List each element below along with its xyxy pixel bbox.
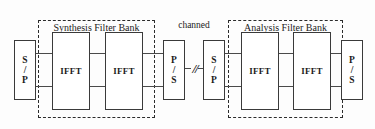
channel-break-symbol-text: // — [192, 61, 197, 76]
wire-sp-in-to-synth-ifft1-lower — [35, 86, 53, 87]
sp-rx-line-2: / — [213, 65, 216, 75]
wire-sp-rx-to-analysis-ifft1-lower — [224, 86, 242, 87]
sp-rx-line-1: S — [211, 55, 216, 65]
serial-to-parallel-input-label: S / P — [22, 55, 28, 85]
wire-synth-ifft1-to-ifft2-upper — [89, 53, 106, 54]
synthesis-ifft-block-2-label: IFFT — [113, 66, 134, 76]
wire-synth-ifft1-to-ifft2-lower — [89, 86, 106, 87]
synthesis-ifft-block-1-label: IFFT — [60, 66, 81, 76]
filter-bank-diagram: S / P Synthesis Filter Bank IFFT IFFT P … — [0, 0, 375, 129]
sp-input-line-2: / — [24, 65, 27, 75]
wire-sp-rx-to-analysis-ifft1-upper — [224, 53, 242, 54]
wire-synth-ifft2-to-ps-tx-lower — [142, 86, 164, 87]
parallel-to-serial-output-block: P / S — [341, 40, 363, 100]
channel-label: channed — [163, 20, 225, 30]
serial-to-parallel-receive-label: S / P — [211, 55, 217, 85]
parallel-to-serial-output-label: P / S — [349, 55, 355, 85]
synthesis-ifft-block-2: IFFT — [105, 32, 143, 110]
wire-synth-ifft2-to-ps-tx-upper — [142, 53, 164, 54]
wire-analysis-ifft1-to-ifft2-upper — [278, 53, 294, 54]
parallel-to-serial-transmit-block: P / S — [163, 40, 185, 100]
sp-input-line-1: S — [22, 55, 27, 65]
wire-sp-in-to-synth-ifft1-upper — [35, 53, 53, 54]
ps-output-line-3: S — [349, 75, 354, 85]
analysis-ifft-block-2-label: IFFT — [301, 66, 322, 76]
sp-input-line-3: P — [22, 75, 28, 85]
analysis-ifft-block-2: IFFT — [293, 32, 331, 110]
ps-output-line-2: / — [351, 65, 354, 75]
synthesis-ifft-block-1: IFFT — [52, 32, 90, 110]
serial-to-parallel-receive-block: S / P — [203, 40, 225, 100]
sp-rx-line-3: P — [211, 75, 217, 85]
analysis-ifft-block-1: IFFT — [241, 32, 279, 110]
channel-break-symbol: // — [186, 62, 204, 75]
channel-label-text: channed — [178, 20, 210, 30]
analysis-ifft-block-1-label: IFFT — [249, 66, 270, 76]
parallel-to-serial-transmit-label: P / S — [171, 55, 177, 85]
ps-output-line-1: P — [349, 55, 355, 65]
ps-tx-line-3: S — [171, 75, 176, 85]
wire-analysis-ifft1-to-ifft2-lower — [278, 86, 294, 87]
ps-tx-line-1: P — [171, 55, 177, 65]
serial-to-parallel-input-block: S / P — [14, 40, 36, 100]
ps-tx-line-2: / — [173, 65, 176, 75]
